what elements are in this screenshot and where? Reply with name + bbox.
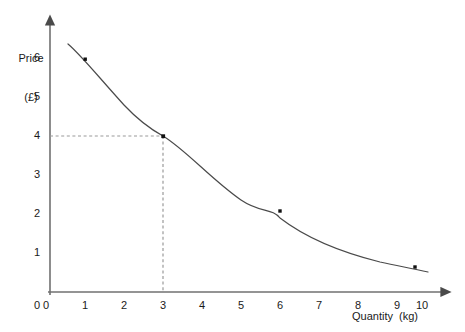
x-tick-label-5: 5 — [233, 300, 249, 311]
x-tick-label-4: 4 — [194, 300, 210, 311]
x-axis-title: Quantity (kg) — [352, 310, 418, 323]
x-tick-label-2: 2 — [116, 300, 132, 311]
data-point-marker — [413, 265, 416, 268]
x-tick-label-6: 6 — [272, 300, 288, 311]
y-axis-title-line1: Price — [8, 52, 54, 65]
demand-curve-path — [68, 44, 428, 272]
data-point-marker — [161, 134, 165, 138]
data-point-marker — [84, 58, 87, 61]
y-tick-label-1: 1 — [29, 247, 45, 258]
y-tick-label-2: 2 — [29, 208, 45, 219]
data-point-marker — [278, 209, 281, 212]
y-axis-title-line2: (£) — [8, 91, 54, 104]
y-tick-label-3: 3 — [29, 169, 45, 180]
chart-plot-area — [0, 0, 465, 332]
y-tick-label-4: 4 — [29, 130, 45, 141]
x-tick-label-3: 3 — [155, 300, 171, 311]
x-tick-label-1: 1 — [77, 300, 93, 311]
x-tick-label-0: 0 — [38, 300, 54, 311]
x-tick-label-7: 7 — [311, 300, 327, 311]
demand-curve-chart: 6 5 4 3 2 1 0 0 1 2 3 4 5 6 7 8 9 10 Pri… — [0, 0, 465, 332]
y-axis-title: Price (£) — [8, 26, 54, 130]
